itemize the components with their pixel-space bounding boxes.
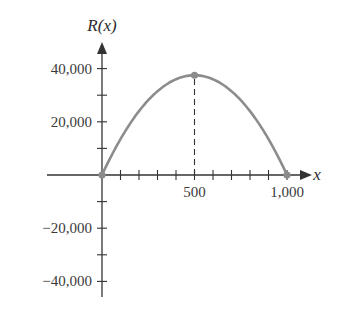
x-intercept-point — [283, 171, 290, 178]
axes — [47, 42, 312, 297]
y-tick-label: −20,000 — [42, 220, 92, 236]
y-tick-label: −40,000 — [42, 273, 92, 289]
y-tick-label: 40,000 — [51, 61, 92, 77]
x-tick-label: 500 — [183, 184, 206, 200]
y-tick-label: 20,000 — [51, 114, 92, 130]
y-axis-label: R(x) — [86, 16, 117, 35]
x-axis-label: x — [312, 165, 321, 184]
y-axis-arrow-icon — [97, 42, 107, 54]
vertex-point — [191, 72, 198, 79]
x-axis-arrow-icon — [300, 170, 312, 180]
revenue-chart: 5001,00040,00020,000−20,000−40,000 R(x) … — [0, 0, 339, 321]
x-tick-label: 1,000 — [270, 184, 304, 200]
origin-point — [98, 171, 105, 178]
